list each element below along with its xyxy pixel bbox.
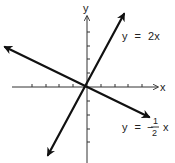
label1-lhs: y — [122, 30, 128, 42]
label2-lhs: y — [122, 121, 128, 133]
y-axis-label: y — [83, 2, 89, 14]
label2-eq: = — [135, 121, 141, 133]
svg-text:y = −: y = − — [122, 121, 154, 133]
line-y-equals-neg-half-x — [5, 47, 149, 117]
fraction-denominator: 2 — [152, 128, 157, 138]
svg-text:y = 2x: y = 2x — [122, 30, 160, 42]
label-y-equals-2x: y = 2x — [122, 30, 160, 42]
x-axis-label: x — [160, 81, 166, 93]
label-y-equals-neg-half-x: y = − 1 2 x — [122, 116, 169, 138]
coordinate-plane: x y y = 2x y = − 1 — [0, 0, 175, 163]
label2-var: x — [163, 121, 169, 133]
fraction-numerator: 1 — [153, 116, 158, 126]
label1-eq: = — [135, 30, 141, 42]
label1-rhs: 2x — [148, 30, 160, 42]
